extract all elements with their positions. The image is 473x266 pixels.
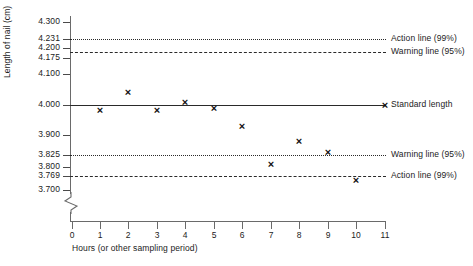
x-axis-tick-mark [328,222,329,229]
lower-warning-line [70,155,386,156]
x-axis-tick-mark [271,222,272,229]
data-point-marker [181,98,190,107]
upper-action-line [70,39,386,40]
data-point-marker [352,176,361,185]
lower-warning-line-label-text: Warning line (95%) [391,149,465,159]
y-axis-tick-value: 3.900 [38,129,60,139]
upper-warning-line-label-text: Warning line (95%) [391,46,465,56]
control-chart: Length of nail (cm) Hours (or other samp… [0,0,473,266]
x-axis-tick-label: 4 [183,230,188,240]
x-axis-tick-label: 5 [212,230,217,240]
lower-action-line-label-text: Action line (99%) [391,170,457,180]
x-axis-tick-mark [214,222,215,229]
x-axis-tick-label: 0 [70,230,75,240]
upper-warning-line [70,52,386,53]
lower-action-line [70,176,386,177]
x-axis-tick-mark [157,222,158,229]
data-point-marker [324,148,333,157]
upper-action-line-label-text: Action line (99%) [391,33,457,43]
standard-line [70,105,386,106]
x-axis-tick-label: 6 [240,230,245,240]
x-axis-tick-mark [385,222,386,229]
y-axis-tick-value: 4.300 [38,16,60,26]
x-axis-tick-label: 1 [98,230,103,240]
x-axis-tick-mark [100,222,101,229]
y-axis-title: Length of nail (cm) [2,0,12,78]
data-point-marker [96,106,105,115]
y-axis-tick-value: 4.100 [38,68,60,78]
x-axis-tick-mark [72,222,73,229]
standard-line-label-text: Standard length [391,99,453,109]
x-axis-tick-mark [128,222,129,229]
data-point-marker [210,104,219,113]
x-axis-tick-mark [299,222,300,229]
y-axis-tick-value: 4.200 [38,42,60,52]
y-axis-tick-value: 3.700 [38,184,60,194]
y-axis-tick-value: 4.175 [38,52,60,62]
data-point-marker [381,101,390,110]
x-axis-line [70,221,386,222]
x-axis-tick-mark [356,222,357,229]
y-axis-tick-value: 3.769 [38,170,60,180]
x-axis-title: Hours (or other sampling period) [72,243,198,253]
x-axis-tick-label: 10 [351,230,360,240]
x-axis-tick-label: 3 [155,230,160,240]
data-point-marker [295,137,304,146]
x-axis-tick-label: 11 [381,230,390,240]
data-point-marker [238,122,247,131]
y-axis-tick-value: 3.825 [38,149,60,159]
x-axis-tick-label: 8 [297,230,302,240]
x-axis-tick-mark [185,222,186,229]
data-point-marker [153,106,162,115]
x-axis-tick-label: 7 [269,230,274,240]
x-axis-tick-label: 2 [126,230,131,240]
data-point-marker [267,160,276,169]
x-axis-tick-label: 9 [326,230,331,240]
x-axis-tick-mark [242,222,243,229]
axis-break-icon [62,192,80,214]
y-axis-tick-value: 4.000 [38,99,60,109]
data-point-marker [124,88,133,97]
